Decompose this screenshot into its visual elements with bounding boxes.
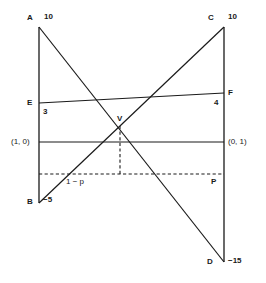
label-value-c: 10 xyxy=(228,13,237,21)
label-value-d: −15 xyxy=(228,257,242,265)
label-point-b: B xyxy=(27,198,33,206)
label-value-b: −5 xyxy=(43,196,52,204)
label-prob-right: P xyxy=(211,178,216,186)
label-prob-left: 1 − p xyxy=(66,178,84,186)
diagonal-a-to-d-line xyxy=(39,27,224,262)
diagram-canvas xyxy=(0,0,266,283)
label-value-a: 10 xyxy=(44,13,53,21)
label-point-e: E xyxy=(27,99,32,107)
payoff-diagram: A 10 C 10 E 3 F 4 (1, 0) (0, 1) V 1 − p … xyxy=(0,0,266,283)
label-coord-left: (1, 0) xyxy=(11,138,30,146)
line-e-to-f xyxy=(39,93,224,103)
label-point-a: A xyxy=(27,14,33,22)
label-value-f: 4 xyxy=(214,99,218,107)
label-point-v: V xyxy=(117,115,122,123)
label-value-e: 3 xyxy=(43,108,47,116)
label-coord-right: (0, 1) xyxy=(228,138,247,146)
label-point-f: F xyxy=(228,89,233,97)
label-point-c: C xyxy=(208,14,214,22)
label-point-d: D xyxy=(207,258,213,266)
